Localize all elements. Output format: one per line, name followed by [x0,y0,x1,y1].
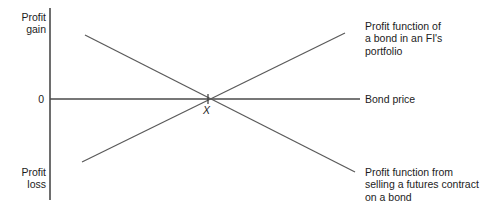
legend-label-futures-profit-function: Profit function from selling a futures c… [365,166,479,203]
intersection-point-label: X [203,104,210,116]
profit-function-diagram: Profit gain 0 Profit loss X Bond price P… [0,0,501,211]
futures-profit-function-line [85,35,355,172]
axis-label-profit-loss: Profit loss [6,166,46,191]
axis-label-origin: 0 [6,93,44,105]
axis-label-bond-price: Bond price [365,93,415,105]
legend-label-bond-profit-function: Profit function of a bond in an FI's por… [365,20,442,57]
axis-label-profit-gain: Profit gain [6,11,46,36]
bond-profit-function-line [82,33,345,162]
